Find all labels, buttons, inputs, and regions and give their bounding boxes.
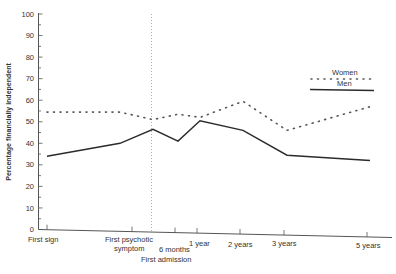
women-series-line bbox=[47, 101, 370, 130]
y-tick-label: 100 bbox=[21, 10, 34, 19]
x-label-first-psychotic-line1: First psychotic bbox=[105, 235, 153, 244]
line-chart: Percentage financially independent 01020… bbox=[0, 0, 396, 274]
y-axis: 0102030405060708090100 bbox=[21, 10, 42, 235]
y-tick-label: 20 bbox=[26, 182, 34, 191]
y-tick-label: 90 bbox=[26, 31, 34, 40]
x-axis-labels: First sign First psychotic symptom First… bbox=[28, 235, 381, 264]
x-label-first-psychotic-line2: symptom bbox=[114, 244, 144, 253]
y-tick-label: 60 bbox=[26, 96, 34, 105]
x-label-2-years: 2 years bbox=[228, 240, 253, 249]
legend-swatch-men bbox=[310, 90, 374, 91]
y-tick-label: 0 bbox=[30, 225, 34, 234]
x-label-6-months: 6 months bbox=[159, 245, 190, 254]
men-series-line bbox=[47, 121, 370, 161]
x-label-3-years: 3 years bbox=[272, 239, 297, 248]
legend-label-men: Men bbox=[337, 79, 352, 88]
y-axis-ticks: 0102030405060708090100 bbox=[21, 10, 42, 235]
legend-label-women: Women bbox=[332, 68, 358, 77]
y-tick-label: 80 bbox=[26, 53, 34, 62]
x-axis bbox=[39, 225, 393, 238]
y-tick-label: 10 bbox=[26, 204, 34, 213]
y-tick-label: 70 bbox=[26, 74, 34, 83]
x-label-1-year: 1 year bbox=[189, 239, 210, 248]
x-label-first-sign: First sign bbox=[28, 235, 58, 244]
legend: Women Men bbox=[310, 68, 374, 91]
y-tick-label: 50 bbox=[26, 117, 34, 126]
y-axis-title: Percentage financially independent bbox=[5, 63, 13, 181]
y-tick-label: 40 bbox=[26, 139, 34, 148]
x-label-first-admission: First admission bbox=[141, 255, 191, 264]
y-tick-label: 30 bbox=[26, 160, 34, 169]
x-label-5-years: 5 years bbox=[356, 241, 381, 250]
